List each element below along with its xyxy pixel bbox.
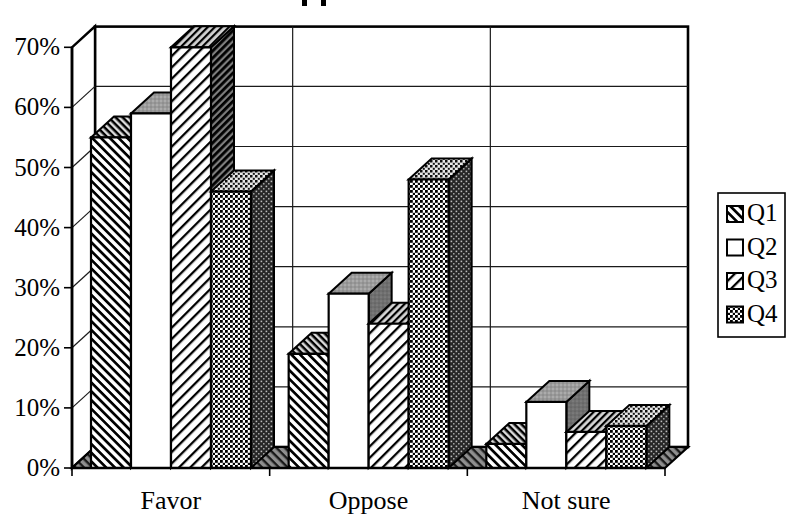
category-label-favor: Favor xyxy=(140,486,201,515)
legend-label-q1: Q1 xyxy=(747,199,778,226)
bar-oppose-q3 xyxy=(369,324,409,468)
bar-favor-q1 xyxy=(91,137,131,468)
y-tick-label-70%: 70% xyxy=(14,33,60,60)
bar-oppose-q2 xyxy=(329,294,369,468)
category-label-oppose: Oppose xyxy=(329,486,408,515)
y-tick-label-20%: 20% xyxy=(14,334,60,361)
y-tick-label-40%: 40% xyxy=(14,214,60,241)
legend-swatch-q4 xyxy=(727,307,743,323)
bar-favor-q2 xyxy=(131,113,171,468)
cropped-title-descender xyxy=(302,0,307,6)
legend-label-q4: Q4 xyxy=(747,300,778,327)
legend-label-q2: Q2 xyxy=(747,233,778,260)
legend-label-q3: Q3 xyxy=(747,266,778,293)
y-tick-label-50%: 50% xyxy=(14,154,60,181)
bar-not-sure-q3 xyxy=(566,432,606,468)
bar-favor-q4 xyxy=(211,192,251,468)
bar-oppose-q1 xyxy=(289,354,329,468)
bar-side-oppose-q4 xyxy=(449,159,472,468)
y-tick-label-10%: 10% xyxy=(14,394,60,421)
bar-not-sure-q1 xyxy=(486,444,526,468)
bar-side-favor-q4 xyxy=(251,171,274,468)
bar-favor-q3 xyxy=(171,47,211,468)
bar-not-sure-q2 xyxy=(526,402,566,468)
legend-swatch-q3 xyxy=(727,273,743,289)
category-label-not-sure: Not sure xyxy=(522,486,611,515)
chart-canvas: 0%10%20%30%40%50%60%70%FavorOpposeNot su… xyxy=(0,0,798,521)
bar-not-sure-q4 xyxy=(606,426,646,468)
legend-swatch-q1 xyxy=(727,206,743,222)
legend-swatch-q2 xyxy=(727,240,743,256)
y-tick-label-30%: 30% xyxy=(14,274,60,301)
poll-results-3d-bar-chart: 0%10%20%30%40%50%60%70%FavorOpposeNot su… xyxy=(0,0,798,521)
y-tick-label-0%: 0% xyxy=(27,454,60,481)
cropped-title-descender xyxy=(321,0,326,6)
bar-oppose-q4 xyxy=(409,180,449,468)
y-tick-label-60%: 60% xyxy=(14,93,60,120)
